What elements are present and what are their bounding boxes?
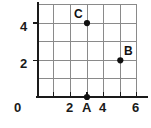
- point-label-C: C: [74, 8, 83, 20]
- x-tick-label-2: 2: [66, 101, 73, 114]
- y-tick-label-4: 4: [20, 20, 27, 33]
- x-tick-label-A: A: [82, 101, 91, 114]
- point-label-B: B: [124, 45, 133, 57]
- x-tick-label-0: 0: [14, 101, 21, 114]
- data-point-B[interactable]: [117, 57, 123, 63]
- coordinate-grid-chart: 4 2 0 2 A 4 6 C B: [0, 0, 151, 128]
- y-tick-label-2: 2: [20, 57, 27, 70]
- data-point-C[interactable]: [84, 20, 90, 26]
- x-tick-label-6: 6: [132, 101, 139, 114]
- x-tick-label-4: 4: [99, 101, 106, 114]
